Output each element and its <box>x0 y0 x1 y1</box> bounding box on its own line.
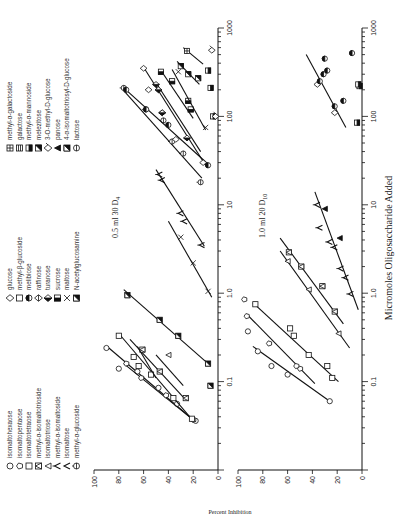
legend-label: galactose <box>16 113 24 140</box>
legend-label: raffinose <box>35 265 42 290</box>
triangle-marker-icon <box>45 463 51 469</box>
circle-marker-icon <box>104 345 109 350</box>
legend-label: methyl-α-glucoside <box>73 405 81 458</box>
legend-label: isomaltopentaose <box>16 408 24 458</box>
square-marker-icon <box>171 396 176 401</box>
y-tick-label: 20 <box>334 476 341 484</box>
legend-item: isomaltotriose <box>44 419 51 469</box>
pentagon-marker-icon <box>266 341 271 346</box>
series <box>317 51 354 109</box>
pentagon-marker-icon <box>242 297 247 302</box>
legend: isomaltohexaoseisomaltopentaoseisomaltot… <box>6 58 81 469</box>
legend-label: turanose <box>44 265 51 290</box>
series <box>280 251 349 348</box>
pentagon-marker-icon <box>163 393 168 398</box>
square-marker-icon <box>330 375 335 380</box>
y-tick-label: 20 <box>190 476 197 484</box>
fit-line <box>156 170 204 247</box>
y-tick-label: 60 <box>140 476 147 484</box>
pentagon-marker-icon <box>17 463 23 469</box>
legend-label: sucrose <box>54 267 61 290</box>
legend-label: isomaltotetraose <box>25 411 32 458</box>
series <box>177 61 201 84</box>
legend-label: isomaltotriose <box>44 419 51 458</box>
series <box>208 46 218 120</box>
circle-marker-icon <box>269 363 274 368</box>
legend-label: melibiose <box>25 263 32 290</box>
legend-label: N-acetylglucosamine <box>73 231 81 290</box>
y-tick-label: 80 <box>259 476 266 484</box>
panel-label: 0.5 ml 30 D4 <box>111 197 121 238</box>
y-tick-label: 80 <box>115 476 122 484</box>
legend-label: methyl-α-isomaltoside <box>54 396 62 458</box>
square-marker-icon <box>136 363 141 368</box>
rotated-figure: isomaltohexaoseisomaltopentaoseisomaltot… <box>0 0 399 528</box>
y-tick-label: 0 <box>359 476 366 480</box>
legend-item: raffinose <box>35 265 43 301</box>
series <box>354 82 362 125</box>
series <box>205 68 215 119</box>
square-marker-icon <box>26 463 32 469</box>
legend-item: maltose <box>63 267 70 301</box>
legend-label: glucose <box>6 268 14 290</box>
series <box>242 297 315 384</box>
x-tick-label: 100 <box>226 110 233 122</box>
legend-item: isomaltose <box>63 427 70 469</box>
y-tick-label: 40 <box>165 476 172 484</box>
legend-label: methyl-β-glucoside <box>16 237 24 290</box>
square-marker-icon <box>291 333 296 338</box>
circle-marker-icon <box>327 399 332 404</box>
legend-item: 4-α-isomaltotriosyl-D-glucose <box>63 58 71 151</box>
y-tick-label: 60 <box>284 476 291 484</box>
x-tick-label: 1000 <box>370 20 377 36</box>
fit-line <box>253 346 330 401</box>
series <box>306 55 346 128</box>
pentagon-marker-icon <box>294 363 299 368</box>
fit-line <box>137 346 156 378</box>
fit-line <box>124 290 208 364</box>
legend-item: methyl-α-mannoside <box>25 82 33 151</box>
legend-item: isomaltotetraose <box>25 411 32 469</box>
legend-item: panose <box>54 119 62 151</box>
series <box>137 346 156 378</box>
series <box>183 48 203 65</box>
circle-marker-icon <box>285 372 290 377</box>
legend-item: methyl-β-glucoside <box>16 237 24 301</box>
square-marker-icon <box>325 363 330 368</box>
legend-label: methyl-α-galactoside <box>6 81 14 140</box>
legend-item: galactose <box>16 113 24 151</box>
series <box>322 206 342 240</box>
figure-canvas: isomaltohexaoseisomaltopentaoseisomaltot… <box>0 0 399 528</box>
legend-label: isomaltose <box>63 427 70 458</box>
series <box>280 238 343 324</box>
fit-line <box>168 221 211 297</box>
y-tick-label: 0 <box>215 476 222 480</box>
legend-item: N-acetylglucosamine <box>73 231 81 301</box>
legend-label: maltose <box>63 267 70 290</box>
legend-item: turanose <box>44 265 52 301</box>
legend-label: methyl-α-isomaltotrioside <box>35 387 43 458</box>
legend-label: 3-O-methyl-D-glucose <box>44 78 52 140</box>
legend-label: 4-α-isomaltotriosyl-D-glucose <box>63 58 71 140</box>
panel-top: 0204060801000.11.01010010000.5 ml 30 D4 <box>91 20 234 488</box>
legend-item: lactose <box>73 120 80 151</box>
legend-item: methyl-α-glucoside <box>72 405 81 469</box>
square-marker-icon <box>17 295 23 301</box>
legend-item: melezitose <box>35 109 42 151</box>
legend-item: methyl-α-galactoside <box>6 81 14 151</box>
circle-marker-icon <box>116 366 121 371</box>
circle-marker-icon <box>245 329 250 334</box>
square-marker-icon <box>306 352 311 357</box>
x-tick-label: 0.1 <box>370 377 377 387</box>
panel-label: 1.0 ml 20 D10 <box>258 194 268 238</box>
y-tick-label: 40 <box>309 476 316 484</box>
legend-item: melibiose <box>25 263 32 301</box>
y-tick-label: 100 <box>91 476 98 488</box>
legend-item: methyl-α-isomaltoside <box>53 396 62 469</box>
square-marker-icon <box>131 354 136 359</box>
x-tick-label: 1.0 <box>370 288 377 298</box>
square-marker-icon <box>116 333 121 338</box>
legend-label: lactose <box>73 120 80 140</box>
legend-item: 3-O-methyl-D-glucose <box>44 78 52 151</box>
x-tick-label: 100 <box>370 110 377 122</box>
